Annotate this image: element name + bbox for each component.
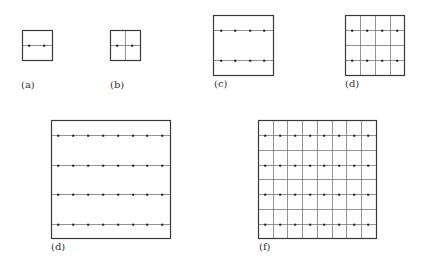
sample-point	[131, 45, 133, 47]
sample-point	[338, 224, 340, 226]
sample-point	[102, 135, 104, 137]
sample-point	[353, 165, 355, 167]
sample-point	[57, 135, 59, 137]
sample-point	[309, 194, 311, 196]
sample-point	[396, 30, 398, 32]
sample-point	[323, 165, 325, 167]
sample-point	[146, 224, 148, 226]
sample-point	[396, 60, 398, 62]
sample-point	[161, 194, 163, 196]
sample-point	[72, 224, 74, 226]
sample-point	[57, 194, 59, 196]
sample-point	[146, 165, 148, 167]
panel-label-d: (d)	[345, 78, 359, 89]
sample-point	[87, 194, 89, 196]
sample-point	[367, 165, 369, 167]
sample-point	[338, 135, 340, 137]
sample-point	[234, 30, 236, 32]
sample-point	[353, 135, 355, 137]
sample-point	[249, 30, 251, 32]
sample-point	[366, 60, 368, 62]
sample-point	[264, 224, 266, 226]
panel-b	[110, 30, 141, 61]
sample-point	[72, 135, 74, 137]
sample-point	[132, 194, 134, 196]
sample-point	[353, 194, 355, 196]
sample-point	[381, 60, 383, 62]
sample-point	[309, 135, 311, 137]
sample-point	[161, 224, 163, 226]
sample-point	[294, 194, 296, 196]
sample-point	[366, 30, 368, 32]
sample-point	[381, 30, 383, 32]
panel-e	[51, 121, 171, 239]
sample-point	[117, 135, 119, 137]
sample-point	[43, 45, 45, 47]
panel-label-e: (d)	[51, 241, 65, 252]
sample-point	[323, 224, 325, 226]
sample-point	[132, 135, 134, 137]
sample-point	[220, 30, 222, 32]
sample-point	[117, 194, 119, 196]
sample-point	[102, 165, 104, 167]
figure: (a) (b) (c) (d) (d) (f)	[0, 0, 422, 266]
sample-point	[294, 224, 296, 226]
sample-point	[294, 165, 296, 167]
sample-point	[220, 60, 222, 62]
sample-point	[309, 165, 311, 167]
panel-border	[214, 16, 274, 76]
sample-point	[264, 194, 266, 196]
sample-point	[351, 60, 353, 62]
sample-point	[263, 30, 265, 32]
sample-point	[72, 165, 74, 167]
panel-f	[258, 120, 377, 239]
sample-point	[146, 135, 148, 137]
panel-label-f: (f)	[259, 241, 271, 252]
sample-point	[132, 224, 134, 226]
sample-point	[28, 45, 30, 47]
panel-c	[213, 16, 274, 76]
sample-point	[234, 60, 236, 62]
panel-d	[345, 15, 405, 76]
sample-point	[249, 60, 251, 62]
sample-point	[57, 224, 59, 226]
sample-point	[132, 165, 134, 167]
sample-point	[323, 135, 325, 137]
sample-point	[351, 30, 353, 32]
sample-point	[353, 224, 355, 226]
sample-point	[87, 224, 89, 226]
sample-point	[87, 135, 89, 137]
sample-point	[263, 60, 265, 62]
sample-point	[323, 194, 325, 196]
sample-point	[294, 135, 296, 137]
sample-point	[279, 194, 281, 196]
sample-point	[57, 165, 59, 167]
sample-point	[309, 224, 311, 226]
sample-point	[264, 135, 266, 137]
figure-canvas	[0, 0, 422, 266]
sample-point	[279, 165, 281, 167]
sample-point	[264, 165, 266, 167]
panel-label-a: (a)	[21, 79, 35, 90]
sample-point	[338, 194, 340, 196]
sample-point	[279, 135, 281, 137]
sample-point	[117, 165, 119, 167]
panel-a	[22, 31, 53, 61]
sample-point	[161, 165, 163, 167]
sample-point	[146, 194, 148, 196]
panel-label-c: (c)	[214, 78, 227, 89]
sample-point	[116, 45, 118, 47]
sample-point	[279, 224, 281, 226]
sample-point	[367, 224, 369, 226]
panel-border	[52, 121, 171, 239]
sample-point	[72, 194, 74, 196]
sample-point	[117, 224, 119, 226]
sample-point	[102, 224, 104, 226]
sample-point	[367, 194, 369, 196]
sample-point	[102, 194, 104, 196]
sample-point	[87, 165, 89, 167]
sample-point	[338, 165, 340, 167]
sample-point	[161, 135, 163, 137]
panel-label-b: (b)	[110, 79, 124, 90]
sample-point	[367, 135, 369, 137]
